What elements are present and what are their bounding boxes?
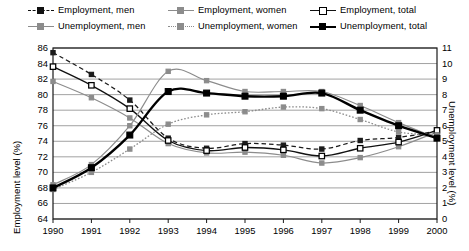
legend-item-employment-women[interactable]: Employment, women <box>168 5 287 16</box>
data-point <box>89 72 93 76</box>
legend-item-label: Employment, men <box>58 5 134 16</box>
data-point <box>434 128 439 133</box>
series-employment-men <box>51 51 439 152</box>
data-point <box>319 153 324 158</box>
plot-area: Employment level (%) Unemployment level … <box>0 40 469 251</box>
data-point <box>397 130 401 134</box>
data-point <box>166 138 171 143</box>
legend-swatch-icon <box>168 5 194 16</box>
data-point <box>204 148 209 153</box>
data-point <box>51 51 55 55</box>
data-point <box>319 90 325 96</box>
plot-frame <box>53 48 437 219</box>
legend-swatch-icon <box>28 5 54 16</box>
data-point <box>50 64 55 69</box>
data-point <box>89 83 94 88</box>
data-point <box>434 135 440 141</box>
data-point <box>166 69 170 73</box>
data-point <box>166 122 170 126</box>
chart-legend: Employment, menEmployment, womenEmployme… <box>0 0 469 40</box>
legend-swatch-icon <box>168 21 194 32</box>
data-point <box>128 116 132 120</box>
data-point <box>165 89 171 95</box>
data-point <box>204 90 210 96</box>
legend-item-unemployment-women[interactable]: Unemployment, women <box>168 21 298 32</box>
legend-item-label: Unemployment, women <box>198 21 298 32</box>
data-point <box>358 156 362 160</box>
legend-item-label: Employment, women <box>198 5 287 16</box>
series-unemployment-total <box>50 89 440 191</box>
legend-item-unemployment-men[interactable]: Unemployment, men <box>28 21 145 32</box>
data-point <box>243 110 247 114</box>
legend-item-label: Unemployment, men <box>58 21 145 32</box>
data-point <box>320 161 324 165</box>
data-point <box>128 147 132 151</box>
legend-item-employment-total[interactable]: Employment, total <box>310 5 416 16</box>
data-point <box>281 153 285 157</box>
data-point <box>51 79 55 83</box>
data-point <box>281 93 287 99</box>
data-point <box>320 107 324 111</box>
data-point <box>396 139 401 144</box>
data-point <box>127 106 132 111</box>
legend-item-label: Unemployment, total <box>340 21 427 32</box>
data-point <box>358 138 362 142</box>
data-point <box>89 96 93 100</box>
data-point <box>281 147 286 152</box>
data-point <box>205 79 209 83</box>
data-point <box>128 98 132 102</box>
data-point <box>50 185 56 191</box>
data-point <box>205 113 209 117</box>
legend-item-employment-men[interactable]: Employment, men <box>28 5 134 16</box>
legend-item-unemployment-total[interactable]: Unemployment, total <box>310 21 427 32</box>
legend-swatch-icon <box>310 21 336 32</box>
data-point <box>358 117 362 121</box>
data-point <box>320 147 324 151</box>
data-point <box>127 132 133 138</box>
legend-swatch-icon <box>28 21 54 32</box>
data-point <box>357 107 363 113</box>
data-point <box>358 146 363 151</box>
data-point <box>242 93 248 99</box>
data-point <box>281 105 285 109</box>
legend-swatch-icon <box>310 5 336 16</box>
data-point <box>242 145 247 150</box>
chart-canvas <box>0 40 469 251</box>
legend-item-label: Employment, total <box>340 5 416 16</box>
data-point <box>396 123 402 129</box>
chart-screenshot: Employment, menEmployment, womenEmployme… <box>0 0 469 251</box>
data-point <box>128 124 132 128</box>
series-unemployment-men <box>51 69 439 187</box>
data-point <box>89 165 95 171</box>
